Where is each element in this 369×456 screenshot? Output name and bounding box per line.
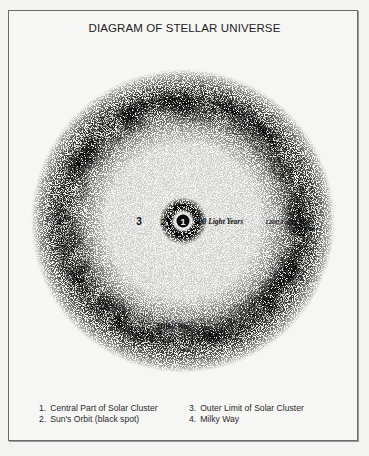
- marker-4-milky-way: 4: [56, 217, 61, 227]
- legend: 1.Central Part of Solar Cluster 3.Outer …: [39, 403, 339, 424]
- marker-1-central-part: 1: [177, 215, 190, 228]
- legend-item-4: 4.Milky Way: [189, 414, 339, 424]
- legend-item-3: 3.Outer Limit of Solar Cluster: [189, 403, 339, 413]
- outer-distance-label: 1200 Light Years: [265, 218, 314, 226]
- stellar-universe-diagram: 1 2 3 4 300 Light Years 1200 Light Years…: [0, 0, 369, 456]
- milky-way-label: Milky Way: [155, 322, 191, 331]
- inner-distance-label: 300 Light Years: [194, 217, 243, 226]
- svg-text:1: 1: [180, 217, 185, 227]
- marker-3-outer-limit: 3: [136, 216, 142, 227]
- legend-item-2: 2.Sun's Orbit (black spot): [39, 414, 189, 424]
- marker-2-sun-orbit: 2: [160, 217, 165, 227]
- legend-item-1: 1.Central Part of Solar Cluster: [39, 403, 189, 413]
- outer-distance-sub-label: 2000: [302, 226, 315, 232]
